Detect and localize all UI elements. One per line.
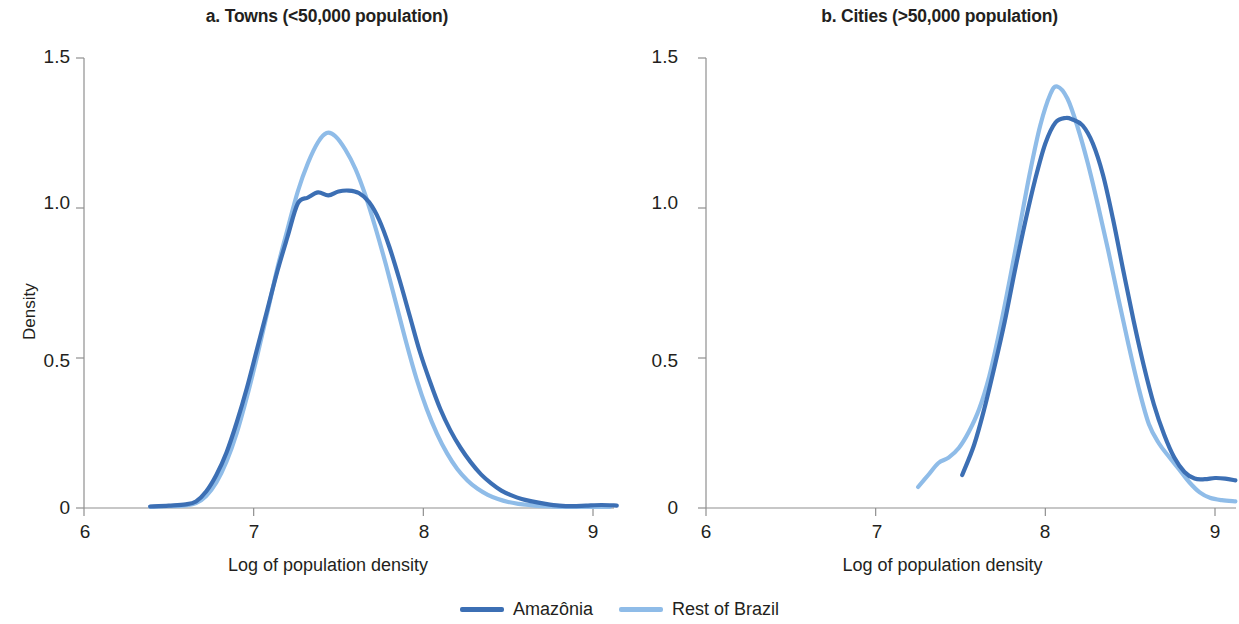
panel-a-ytick-0: 0 [20,497,70,519]
panel-towns: a. Towns (<50,000 population) 1.5 1.0 0.… [0,0,620,590]
density-figure: a. Towns (<50,000 population) 1.5 1.0 0.… [0,0,1239,624]
panel-a-xtick-6: 6 [74,521,96,543]
panel-a-plot [0,0,620,590]
legend-label-rest-of-brazil: Rest of Brazil [672,599,779,620]
panel-b-xlabel: Log of population density [620,555,1239,576]
panel-b-ytick-1-0: 1.0 [628,192,678,214]
panel-a-xtick-8: 8 [413,521,435,543]
panel-a-xlabel: Log of population density [0,555,620,576]
panel-a-ytick-1-0: 1.0 [20,192,70,214]
panel-b-xtick-7: 7 [866,521,888,543]
panel-b-plot [620,0,1239,590]
line-swatch-icon [460,607,504,612]
panel-cities: b. Cities (>50,000 population) 1.5 1.0 0… [620,0,1239,590]
legend-item-rest-of-brazil: Rest of Brazil [619,599,779,620]
panel-b-ytick-1-5: 1.5 [628,46,678,68]
panel-a-ylabel: Density [20,283,40,340]
panel-b-xtick-6: 6 [695,521,717,543]
panel-a-xtick-7: 7 [243,521,265,543]
legend-item-amazonia: Amazônia [460,599,593,620]
panel-a-ytick-1-5: 1.5 [20,46,70,68]
panel-a-xtick-9: 9 [582,521,604,543]
line-swatch-icon [619,607,663,612]
legend-label-amazonia: Amazônia [513,599,593,620]
panel-a-ytick-0-5: 0.5 [20,350,70,372]
panel-b-xtick-9: 9 [1204,521,1226,543]
panel-b-xtick-8: 8 [1034,521,1056,543]
chart-legend: Amazônia Rest of Brazil [0,599,1239,620]
panel-b-ytick-0: 0 [628,497,678,519]
panel-b-ytick-0-5: 0.5 [628,350,678,372]
